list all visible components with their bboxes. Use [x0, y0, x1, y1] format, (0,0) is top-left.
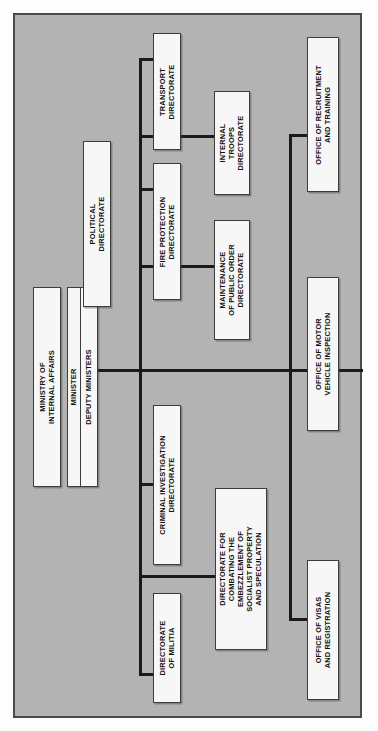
node-motor-vehicle-label: OFFICE OF MOTORVEHICLE INSPECTION — [314, 313, 332, 396]
connector-spine-lower — [139, 369, 142, 675]
node-transport-directorate[interactable]: TRANSPORTDIRECTORATE — [153, 33, 181, 150]
connector-branch-visas — [289, 618, 308, 621]
node-office-of-visas-and-registration[interactable]: OFFICE OF VISASAND REGISTRATION — [307, 560, 339, 700]
node-embezzlement-directorate[interactable]: DIRECTORATE FORCOMBATING THEEMBEZZLEMENT… — [215, 488, 267, 650]
node-public-order-directorate[interactable]: MAINTENANCEOF PUBLIC ORDERDIRECTORATE — [214, 220, 250, 340]
node-fire-protection-label: FIRE PROTECTIONDIRECTORATE — [158, 196, 176, 266]
node-political-label: POLITICALDIRECTORATE — [88, 197, 106, 252]
node-criminal-investigation-label: CRIMINAL INVESTIGATIONDIRECTORATE — [158, 435, 176, 534]
connector-spine-offices — [289, 134, 292, 620]
node-ministry-of-internal-affairs[interactable]: MINISTRY OFINTERNAL AFFAIRS — [33, 287, 61, 487]
node-internal-troops-label: INTERNALTROOPSDIRECTORATE — [218, 116, 245, 171]
node-directorate-of-militia[interactable]: DIRECTORATEOF MILITIA — [153, 593, 181, 703]
node-office-of-recruitment-and-training[interactable]: OFFICE OF RECRUITMENTAND TRAINING — [307, 37, 339, 192]
node-office-of-motor-vehicle-inspection[interactable]: OFFICE OF MOTORVEHICLE INSPECTION — [307, 277, 339, 431]
node-fire-protection-directorate[interactable]: FIRE PROTECTIONDIRECTORATE — [153, 163, 181, 300]
connector-branch-recruitment — [289, 134, 308, 137]
node-embezzlement-label: DIRECTORATE FORCOMBATING THEEMBEZZLEMENT… — [218, 526, 263, 612]
node-political-directorate[interactable]: POLITICALDIRECTORATE — [83, 141, 111, 307]
node-minister[interactable]: MINISTER — [67, 287, 80, 487]
chart-panel: MINISTRY OFINTERNAL AFFAIRS MINISTER DEP… — [13, 13, 362, 718]
node-public-order-label: MAINTENANCEOF PUBLIC ORDERDIRECTORATE — [218, 244, 245, 316]
node-militia-label: DIRECTORATEOF MILITIA — [158, 621, 176, 676]
node-deputy-ministers[interactable]: DEPUTY MINISTERS — [80, 287, 98, 487]
node-transport-label: TRANSPORTDIRECTORATE — [158, 64, 176, 119]
node-criminal-investigation-directorate[interactable]: CRIMINAL INVESTIGATIONDIRECTORATE — [153, 405, 181, 565]
connector-branch-embezzlement — [139, 575, 217, 578]
connector-spine-upper — [139, 58, 142, 371]
node-recruitment-label: OFFICE OF RECRUITMENTAND TRAINING — [314, 65, 332, 164]
node-minister-label: MINISTER — [69, 369, 78, 406]
node-internal-troops-directorate[interactable]: INTERNALTROOPSDIRECTORATE — [214, 91, 250, 195]
node-deputy-ministers-label: DEPUTY MINISTERS — [84, 349, 93, 424]
org-chart-root: MINISTRY OFINTERNAL AFFAIRS MINISTER DEP… — [0, 0, 378, 731]
node-ministry-label: MINISTRY OFINTERNAL AFFAIRS — [38, 350, 56, 424]
node-visas-label: OFFICE OF VISASAND REGISTRATION — [314, 592, 332, 669]
